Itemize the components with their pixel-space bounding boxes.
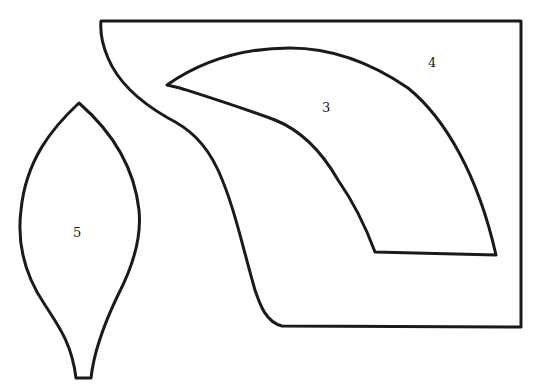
- piece-3-label: 3: [322, 101, 330, 114]
- piece-5-outline: [20, 103, 140, 378]
- piece-3-outline: [167, 48, 496, 255]
- piece-4-outline: [101, 21, 521, 327]
- piece-5-label: 5: [73, 226, 81, 239]
- piece-4-label: 4: [428, 56, 436, 69]
- pattern-diagram: [0, 0, 540, 390]
